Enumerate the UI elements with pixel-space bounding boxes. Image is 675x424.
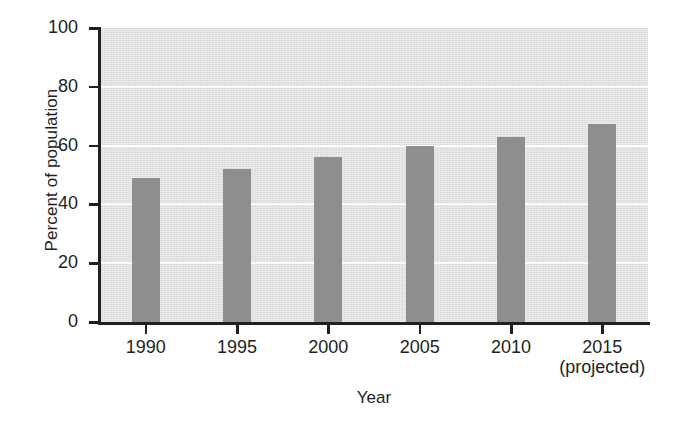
y-axis-title: Percent of population [42, 20, 62, 320]
x-tick-label-text: 2015 [582, 337, 622, 357]
y-tick-40 [89, 203, 98, 206]
x-tick-sublabel-text: (projected) [532, 357, 672, 377]
y-tick-label-40: 40 [0, 194, 78, 212]
x-tick-1990 [145, 324, 148, 334]
gridline-20 [100, 262, 648, 264]
plot-background-texture [100, 28, 648, 322]
gridline-80 [100, 86, 648, 88]
bar-2015 [588, 124, 616, 322]
x-axis-line [98, 322, 650, 325]
y-tick-0 [89, 321, 98, 324]
x-tick-label-text: 1990 [126, 337, 166, 357]
bar-2005 [406, 146, 434, 322]
y-tick-60 [89, 145, 98, 148]
x-tick-2015 [601, 324, 604, 334]
y-tick-label-60: 60 [0, 136, 78, 154]
y-axis-line [98, 27, 101, 324]
bar-1995 [223, 169, 251, 322]
x-tick-label-text: 2005 [400, 337, 440, 357]
bar-1990 [132, 178, 160, 322]
y-tick-80 [89, 86, 98, 89]
x-tick-1995 [236, 324, 239, 334]
x-tick-label-text: 2000 [308, 337, 348, 357]
y-tick-label-0: 0 [0, 312, 78, 330]
x-tick-2000 [327, 324, 330, 334]
x-tick-label-2015: 2015(projected) [532, 337, 672, 377]
y-tick-label-100: 100 [0, 18, 78, 36]
gridline-40 [100, 203, 648, 205]
bar-chart-figure: Percent of population 020406080100 19901… [0, 0, 675, 424]
bar-2010 [497, 137, 525, 322]
gridline-60 [100, 145, 648, 147]
y-tick-100 [89, 27, 98, 30]
y-tick-20 [89, 262, 98, 265]
x-tick-label-text: 2010 [491, 337, 531, 357]
x-tick-label-text: 1995 [217, 337, 257, 357]
x-axis-title: Year [100, 388, 648, 408]
bar-2000 [314, 157, 342, 322]
plot-area [100, 28, 648, 322]
y-tick-label-20: 20 [0, 253, 78, 271]
x-tick-2010 [510, 324, 513, 334]
y-tick-label-80: 80 [0, 77, 78, 95]
x-tick-2005 [419, 324, 422, 334]
